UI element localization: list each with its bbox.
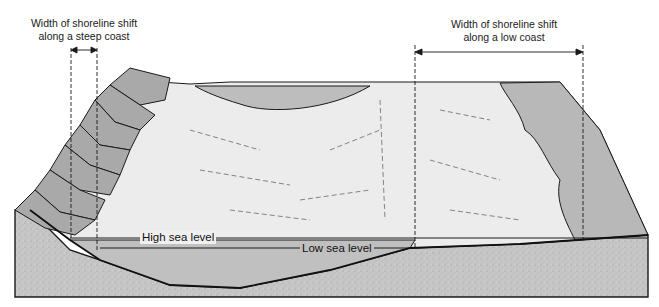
low-coast-label: Width of shoreline shift along a low coa… (434, 18, 574, 44)
high-sea-level-label: High sea level (140, 231, 216, 244)
block-diagram-graphic (0, 0, 659, 307)
steep-coast-label-line2: along a steep coast (14, 30, 154, 43)
low-coast-label-line2: along a low coast (434, 31, 574, 44)
shoreline-shift-diagram: Width of shoreline shift along a steep c… (0, 0, 659, 307)
steep-coast-label-line1: Width of shoreline shift (14, 17, 154, 30)
low-coast-label-line1: Width of shoreline shift (434, 18, 574, 31)
low-sea-level-label: Low sea level (300, 242, 374, 255)
steep-coast-label: Width of shoreline shift along a steep c… (14, 17, 154, 43)
